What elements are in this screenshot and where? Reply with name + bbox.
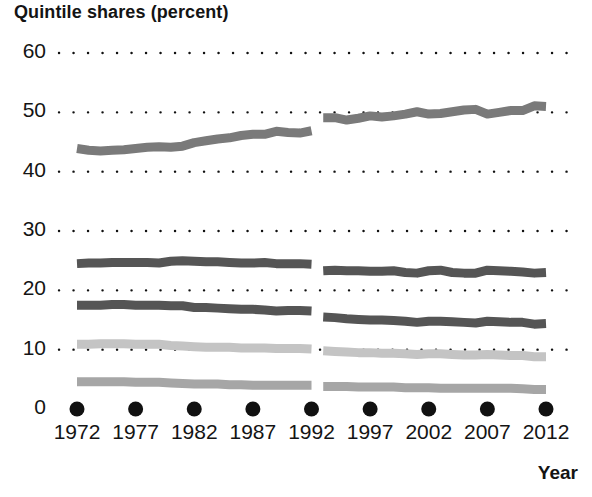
series-line-3-segment-2 (323, 317, 546, 324)
gridlines (59, 53, 568, 350)
x-axis-tick-label: 2012 (515, 420, 577, 444)
series-line-2-segment-2 (323, 270, 546, 273)
series-line-1-segment-2 (323, 106, 546, 120)
chart-title: Quintile shares (percent) (14, 2, 229, 23)
x-axis-tick-label: 1992 (281, 420, 343, 444)
x-axis-tick-dot (128, 402, 143, 417)
x-axis-tick-label: 1982 (163, 420, 225, 444)
quintile-shares-chart: Quintile shares (percent) 0102030405060 … (0, 0, 592, 497)
series-line-4-segment-1 (77, 344, 312, 349)
y-axis-tick-label: 50 (0, 98, 46, 122)
x-axis-tick-label: 2002 (398, 420, 460, 444)
x-axis-tick-dot (480, 402, 495, 417)
x-axis-tick-dot (363, 402, 378, 417)
y-axis-tick-label: 0 (0, 395, 46, 419)
x-axis-tick-label: 2007 (456, 420, 518, 444)
series-line-1-segment-1 (77, 131, 312, 151)
x-axis-tick-dot (304, 402, 319, 417)
x-axis-tick-dot (539, 402, 554, 417)
series-line-4-segment-2 (323, 351, 546, 357)
x-axis-title: Year (538, 462, 578, 484)
x-axis-tick-label: 1987 (222, 420, 284, 444)
series-line-3-segment-1 (77, 305, 312, 312)
x-axis-tick-dot (187, 402, 202, 417)
series-line-5-segment-2 (323, 386, 546, 389)
y-axis-tick-label: 20 (0, 276, 46, 300)
y-axis-tick-label: 40 (0, 158, 46, 182)
x-axis-tick-dot (245, 402, 260, 417)
x-axis-tick-dot (70, 402, 85, 417)
x-axis-tick-markers (70, 402, 554, 417)
y-axis-tick-label: 10 (0, 336, 46, 360)
x-axis-tick-label: 1972 (46, 420, 108, 444)
x-axis-tick-label: 1997 (339, 420, 401, 444)
y-axis-tick-label: 30 (0, 217, 46, 241)
series-line-2-segment-1 (77, 261, 312, 265)
series-layer (77, 106, 546, 390)
y-axis-tick-label: 60 (0, 39, 46, 63)
x-axis-tick-dot (421, 402, 436, 417)
series-line-5-segment-1 (77, 382, 312, 386)
x-axis-tick-label: 1977 (105, 420, 167, 444)
